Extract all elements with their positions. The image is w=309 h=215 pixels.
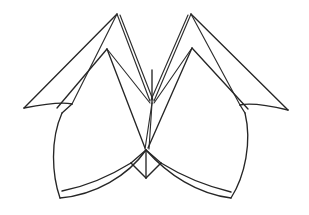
figure-canvas: Folded paper form line drawing: [0, 0, 309, 215]
line-drawing-svg: Folded paper form line drawing: [0, 0, 309, 215]
drawing-background: [0, 0, 309, 215]
